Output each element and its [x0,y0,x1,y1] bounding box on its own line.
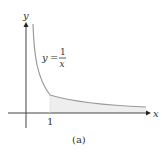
x-axis-label: x [153,108,159,119]
hyperbola-figure: y x 1 y = 1 x (a) [0,0,162,155]
y-axis-arrow-icon [24,22,29,27]
equation-label: y = 1 x [41,47,66,69]
equation-lhs: y [41,52,48,63]
x-axis-arrow-icon [146,111,151,116]
equation-denominator: x [60,59,65,69]
curve-reciprocal [33,24,146,107]
equation-equals: = [50,52,58,63]
figure-caption: (a) [72,134,86,145]
equation-numerator: 1 [60,47,66,57]
tick-label-1: 1 [47,116,53,127]
y-axis-label: y [22,10,29,21]
